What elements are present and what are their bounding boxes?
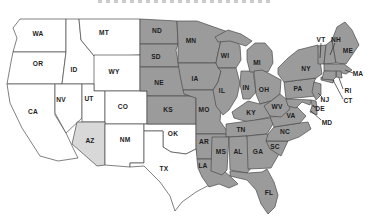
state-label-or: OR: [33, 60, 43, 67]
state-label-nm: NM: [120, 136, 131, 143]
state-label-ca: CA: [28, 108, 38, 115]
state-label-pa: PA: [293, 85, 302, 92]
state-label-mo: MO: [198, 106, 209, 113]
state-label-md: MD: [322, 119, 333, 126]
state-label-mn: MN: [186, 37, 197, 44]
state-label-wy: WY: [108, 68, 119, 75]
state-label-ms: MS: [216, 148, 227, 155]
state-label-me: ME: [343, 47, 354, 54]
state-label-nv: NV: [56, 96, 66, 103]
state-label-al: AL: [233, 148, 242, 155]
state-label-co: CO: [118, 103, 128, 110]
state-label-ny: NY: [301, 65, 311, 72]
state-label-nd: ND: [152, 27, 162, 34]
state-label-nh: NH: [331, 36, 341, 43]
state-label-nj: NJ: [321, 96, 330, 103]
state-ia: [178, 63, 221, 90]
state-label-ia: IA: [192, 75, 199, 82]
leader-line-ct: [333, 80, 343, 99]
state-label-sc: SC: [270, 143, 280, 150]
state-label-ga: GA: [253, 148, 263, 155]
state-label-ne: NE: [154, 79, 164, 86]
us-map-svg: WAORCAIDMTWYNVUTCOAZNMOKTXNDSDNEKSMNIAMO…: [0, 0, 377, 222]
state-label-va: VA: [286, 112, 295, 119]
state-label-vt: VT: [317, 36, 326, 43]
states-layer: [7, 19, 359, 214]
state-ct: [322, 71, 336, 80]
state-label-la: LA: [198, 162, 207, 169]
state-label-ct: CT: [343, 97, 352, 104]
state-me: [332, 22, 359, 64]
state-nm: [105, 124, 144, 167]
state-label-wa: WA: [32, 30, 43, 37]
state-label-ma: MA: [353, 70, 364, 77]
us-map-figure: WAORCAIDMTWYNVUTCOAZNMOKTXNDSDNEKSMNIAMO…: [0, 0, 377, 222]
state-label-fl: FL: [265, 189, 273, 196]
state-label-ri: RI: [345, 87, 352, 94]
state-label-de: DE: [315, 105, 325, 112]
state-label-nc: NC: [280, 128, 290, 135]
state-or: [7, 52, 66, 84]
state-label-tx: TX: [160, 165, 169, 172]
state-label-ar: AR: [199, 138, 209, 145]
state-label-mi: MI: [253, 59, 261, 66]
state-label-mt: MT: [99, 29, 109, 36]
state-label-ks: KS: [163, 106, 173, 113]
state-label-il: IL: [219, 87, 225, 94]
state-label-tn: TN: [236, 126, 245, 133]
state-label-ky: KY: [246, 109, 256, 116]
state-label-sd: SD: [151, 53, 161, 60]
state-label-az: AZ: [85, 137, 94, 144]
state-label-ut: UT: [84, 95, 93, 102]
state-label-in: IN: [243, 84, 250, 91]
leader-line-ri: [339, 78, 343, 89]
state-label-ok: OK: [168, 130, 178, 137]
state-label-id: ID: [71, 66, 78, 73]
state-ms: [211, 137, 229, 175]
state-label-wv: WV: [271, 103, 282, 110]
state-label-oh: OH: [259, 86, 269, 93]
state-label-wi: WI: [221, 52, 229, 59]
state-az: [72, 122, 105, 166]
state-ri: [336, 71, 342, 78]
